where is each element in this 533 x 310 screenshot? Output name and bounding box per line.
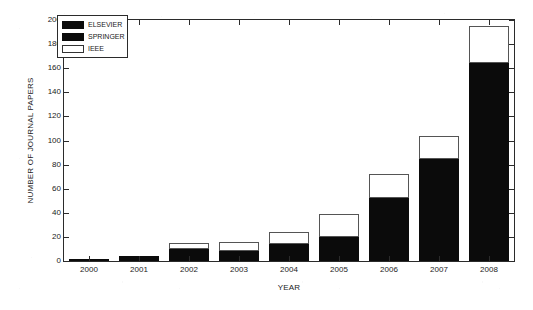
y-tick-label-140: 140 bbox=[48, 88, 61, 96]
legend-label-ieee: IEEE bbox=[88, 45, 104, 53]
y-tick-60 bbox=[64, 189, 69, 190]
y-tick-right-160 bbox=[509, 68, 514, 69]
bars-layer bbox=[64, 20, 514, 261]
y-axis-title: NUMBER OF JOURNAL PAPERS bbox=[24, 19, 36, 262]
y-tick-label-40: 40 bbox=[52, 209, 61, 217]
y-tick-label-160: 160 bbox=[48, 64, 61, 72]
figure-canvas: NUMBER OF JOURNAL PAPERS 020406080100120… bbox=[0, 0, 533, 310]
y-tick-160 bbox=[64, 68, 69, 69]
y-tick-right-80 bbox=[509, 165, 514, 166]
y-tick-label-80: 80 bbox=[52, 161, 61, 169]
y-tick-80 bbox=[64, 165, 69, 166]
y-tick-right-0 bbox=[509, 261, 514, 262]
x-tick-2006 bbox=[389, 256, 390, 261]
bar-segment-ieee-2004 bbox=[269, 232, 309, 244]
y-tick-right-120 bbox=[509, 116, 514, 117]
y-tick-40 bbox=[64, 213, 69, 214]
x-tick-2002 bbox=[189, 256, 190, 261]
y-tick-label-60: 60 bbox=[52, 185, 61, 193]
x-tick-top-2006 bbox=[389, 20, 390, 25]
x-tick-label-2003: 2003 bbox=[230, 265, 248, 274]
bar-2006 bbox=[369, 174, 409, 261]
bar-segment-ieee-2006 bbox=[369, 174, 409, 198]
bar-2005 bbox=[319, 214, 359, 261]
y-tick-140 bbox=[64, 92, 69, 93]
legend-label-elsevier: ELSEVIER bbox=[88, 21, 122, 29]
x-tick-label-2008: 2008 bbox=[480, 265, 498, 274]
x-tick-label-2002: 2002 bbox=[180, 265, 198, 274]
x-tick-label-2005: 2005 bbox=[330, 265, 348, 274]
x-tick-2005 bbox=[339, 256, 340, 261]
x-tick-top-2007 bbox=[439, 20, 440, 25]
x-tick-2001 bbox=[139, 256, 140, 261]
y-tick-right-200 bbox=[509, 20, 514, 21]
y-tick-right-100 bbox=[509, 141, 514, 142]
legend-item-springer: SPRINGER bbox=[62, 31, 124, 42]
y-tick-0 bbox=[64, 261, 69, 262]
x-tick-top-2003 bbox=[239, 20, 240, 25]
bar-segment-ieee-2005 bbox=[319, 214, 359, 237]
bar-segment-publishers-2008 bbox=[469, 63, 509, 261]
y-tick-right-140 bbox=[509, 92, 514, 93]
x-tick-2008 bbox=[489, 256, 490, 261]
legend-item-elsevier: ELSEVIER bbox=[62, 19, 124, 30]
y-tick-120 bbox=[64, 116, 69, 117]
y-tick-label-100: 100 bbox=[48, 137, 61, 145]
x-tick-label-2001: 2001 bbox=[130, 265, 148, 274]
x-axis-title: YEAR bbox=[63, 283, 515, 292]
y-tick-20 bbox=[64, 237, 69, 238]
legend-swatch-ieee bbox=[62, 45, 84, 53]
x-tick-top-2002 bbox=[189, 20, 190, 25]
chart-legend: ELSEVIER SPRINGER IEEE bbox=[57, 15, 128, 58]
y-tick-right-20 bbox=[509, 237, 514, 238]
legend-swatch-elsevier bbox=[62, 21, 84, 29]
bar-2008 bbox=[469, 26, 509, 261]
x-tick-top-2008 bbox=[489, 20, 490, 25]
bar-segment-publishers-2006 bbox=[369, 198, 409, 261]
bar-segment-ieee-2007 bbox=[419, 136, 459, 159]
x-tick-2004 bbox=[289, 256, 290, 261]
x-tick-top-2001 bbox=[139, 20, 140, 25]
legend-label-springer: SPRINGER bbox=[88, 33, 125, 41]
x-tick-label-2006: 2006 bbox=[380, 265, 398, 274]
x-tick-2003 bbox=[239, 256, 240, 261]
x-tick-label-2000: 2000 bbox=[80, 265, 98, 274]
y-tick-right-180 bbox=[509, 44, 514, 45]
y-tick-label-120: 120 bbox=[48, 112, 61, 120]
plot-area: 0204060801001201401601802002000200120022… bbox=[63, 19, 515, 262]
bar-segment-ieee-2003 bbox=[219, 242, 259, 252]
x-tick-label-2007: 2007 bbox=[430, 265, 448, 274]
x-tick-2000 bbox=[89, 256, 90, 261]
x-tick-top-2005 bbox=[339, 20, 340, 25]
bar-2007 bbox=[419, 136, 459, 261]
y-tick-right-60 bbox=[509, 189, 514, 190]
legend-swatch-springer bbox=[62, 33, 84, 41]
x-tick-2007 bbox=[439, 256, 440, 261]
y-tick-right-40 bbox=[509, 213, 514, 214]
x-tick-top-2004 bbox=[289, 20, 290, 25]
x-tick-label-2004: 2004 bbox=[280, 265, 298, 274]
y-tick-100 bbox=[64, 141, 69, 142]
bar-segment-ieee-2008 bbox=[469, 26, 509, 63]
bar-segment-publishers-2007 bbox=[419, 159, 459, 261]
legend-item-ieee: IEEE bbox=[62, 43, 124, 54]
y-axis-title-text: NUMBER OF JOURNAL PAPERS bbox=[26, 77, 35, 203]
y-tick-label-20: 20 bbox=[52, 233, 61, 241]
y-tick-label-0: 0 bbox=[57, 257, 61, 265]
